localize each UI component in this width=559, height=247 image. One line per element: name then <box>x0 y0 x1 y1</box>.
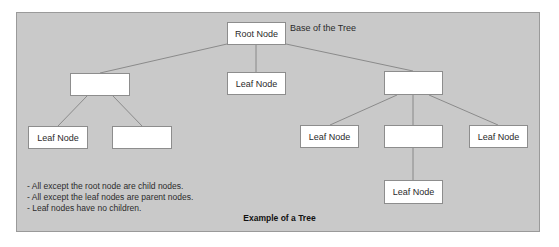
right-parent-node <box>384 71 443 95</box>
right-leaf-node-2: Leaf Node <box>469 125 528 148</box>
left-leaf-node: Leaf Node <box>28 126 88 149</box>
edge-root-left-parent <box>100 44 227 73</box>
edge-root-right-parent <box>286 44 413 71</box>
note-item: - All except the root node are child nod… <box>27 181 193 192</box>
left-parent-node <box>70 73 130 96</box>
right-leaf-node-1: Leaf Node <box>300 125 359 148</box>
note-item: - All except the leaf nodes are parent n… <box>27 192 193 203</box>
root-node: Root Node <box>227 22 286 45</box>
diagram-caption: Example of a Tree <box>0 213 559 223</box>
bottom-leaf-node: Leaf Node <box>384 180 443 204</box>
edge-right-parent-right-leaf-1 <box>330 95 397 125</box>
edge-right-parent-right-leaf-2 <box>429 95 498 125</box>
right-middle-node <box>384 125 443 148</box>
base-of-tree-annotation: Base of the Tree <box>290 23 356 33</box>
center-leaf-node: Leaf Node <box>227 72 286 95</box>
notes-list: - All except the root node are child nod… <box>27 181 193 214</box>
left-blank-node <box>112 126 172 149</box>
edge-left-parent-left-leaf <box>58 96 87 126</box>
edge-left-parent-left-blank <box>113 96 142 126</box>
